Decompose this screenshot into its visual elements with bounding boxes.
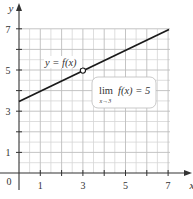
y-axis-arrow-icon xyxy=(16,3,22,11)
limit-lim: lim xyxy=(99,85,113,96)
limit-subscript: x→3 xyxy=(99,98,112,104)
y-tick-5: 5 xyxy=(6,65,11,76)
y-tick-1: 1 xyxy=(6,147,11,158)
x-axis-label: x xyxy=(189,179,193,191)
x-tick-3: 3 xyxy=(80,180,85,191)
open-point-marker xyxy=(80,68,85,73)
origin-label: 0 xyxy=(7,176,12,187)
chart: 1 3 5 7 1 3 5 7 0 y x y = f(x) lim f(x) … xyxy=(0,0,193,199)
x-axis-arrow-icon xyxy=(184,170,192,176)
x-tick-7: 7 xyxy=(166,180,171,191)
y-tick-3: 3 xyxy=(6,106,11,117)
limit-expression: f(x) = 5 xyxy=(118,85,150,97)
x-tick-5: 5 xyxy=(123,180,128,191)
y-axis-label: y xyxy=(8,2,14,14)
y-tick-7: 7 xyxy=(6,24,11,35)
x-tick-1: 1 xyxy=(38,180,43,191)
curve-label: y = f(x) xyxy=(44,57,77,69)
